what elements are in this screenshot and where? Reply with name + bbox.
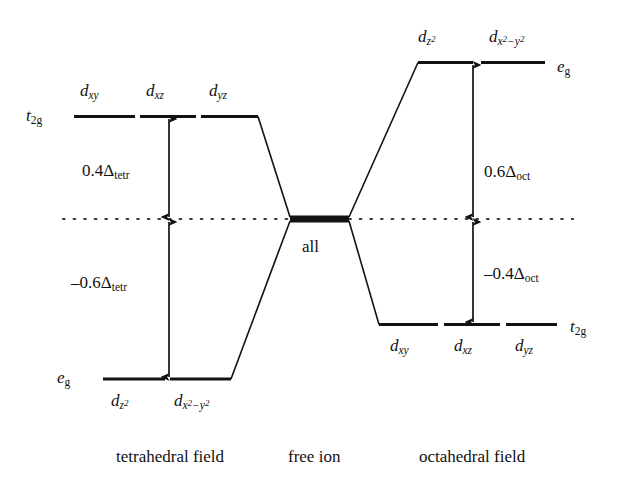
caption-octahedral-field: octahedral field xyxy=(419,448,525,465)
label-tet-orbital-dx2y2: dx2−y2 xyxy=(174,392,209,412)
label-octahedral-upper-energy: 0.6Δoct xyxy=(484,163,530,183)
label-free-ion-all: all xyxy=(302,238,319,255)
caption-free-ion: free ion xyxy=(288,448,340,465)
label-oct-orbital-dxz: dxz xyxy=(454,337,472,357)
label-octahedral-eg-term: eg xyxy=(557,58,570,78)
label-tetrahedral-eg-term: eg xyxy=(57,369,70,389)
label-octahedral-t2g-term: t2g xyxy=(570,318,586,338)
correlation-line-tet-eg xyxy=(231,221,290,379)
label-tet-orbital-dxz: dxz xyxy=(146,82,164,102)
correlation-line-tet-t2g xyxy=(258,117,290,218)
label-tetrahedral-t2g-term: t2g xyxy=(26,107,42,127)
label-tet-orbital-dz2: dz2 xyxy=(111,392,128,412)
correlation-line-oct-t2g xyxy=(349,221,379,325)
label-oct-orbital-dxy: dxy xyxy=(390,337,409,357)
label-octahedral-lower-energy: –0.4Δoct xyxy=(484,265,539,285)
caption-tetrahedral-field: tetrahedral field xyxy=(116,448,224,465)
label-tet-orbital-dyz: dyz xyxy=(209,82,227,102)
crystal-field-splitting-figure: t2g dxy dxz dyz 0.4Δtetr –0.6Δtetr eg dz… xyxy=(0,0,639,492)
correlation-line-oct-eg xyxy=(349,63,418,218)
label-tet-orbital-dxy: dxy xyxy=(80,82,99,102)
label-oct-orbital-dyz: dyz xyxy=(515,337,533,357)
label-tetrahedral-upper-energy: 0.4Δtetr xyxy=(82,162,130,182)
label-oct-orbital-dx2y2: dx2−y2 xyxy=(489,28,524,48)
label-tetrahedral-lower-energy: –0.6Δtetr xyxy=(71,274,127,294)
label-oct-orbital-dz2: dz2 xyxy=(418,28,435,48)
diagram-canvas xyxy=(0,0,639,492)
